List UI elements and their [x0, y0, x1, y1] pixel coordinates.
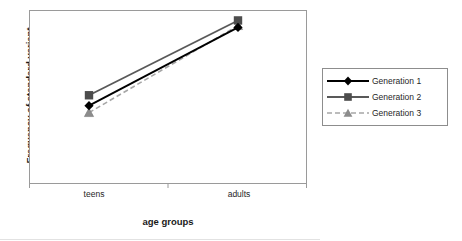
legend-marker-triangle-icon [326, 106, 370, 120]
page-bottom-rule [0, 239, 320, 240]
legend-label-generation-3: Generation 3 [372, 108, 421, 118]
series-generation-2-marker-teens [85, 91, 93, 99]
series-generation-2-line [89, 20, 238, 95]
series-generation-1-line [89, 27, 238, 105]
legend-swatch-generation-2 [326, 90, 370, 104]
chart-legend: Generation 1 Generation 2 Generation 3 [322, 68, 448, 126]
legend-item-generation-1: Generation 1 [323, 73, 447, 89]
legend-marker-diamond-icon [326, 74, 370, 88]
series-generation-1-group [84, 23, 242, 111]
series-generation-3-group [84, 21, 242, 117]
legend-swatch-generation-1 [326, 74, 370, 88]
legend-item-generation-3: Generation 3 [323, 105, 447, 121]
legend-marker-square-icon [326, 90, 370, 104]
plot-series-canvas [29, 10, 307, 184]
x-tick-label-adults: adults [204, 189, 274, 199]
legend-label-generation-2: Generation 2 [372, 92, 421, 102]
legend-label-generation-1: Generation 1 [372, 76, 421, 86]
x-tick-label-teens: teens [59, 189, 129, 199]
x-axis-title: age groups [29, 216, 307, 227]
x-axis-tick-labels: teens adults [29, 189, 307, 203]
legend-swatch-generation-3 [326, 106, 370, 120]
series-generation-1-marker-teens [84, 101, 93, 110]
line-chart-figure: Frequency of standard variant teens adul… [0, 0, 462, 241]
legend-item-generation-2: Generation 2 [323, 89, 447, 105]
series-generation-2-group [85, 16, 242, 99]
